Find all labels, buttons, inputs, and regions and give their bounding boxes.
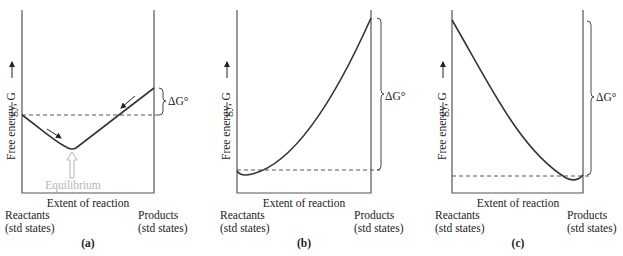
frame-c xyxy=(452,10,583,193)
frame-a xyxy=(22,10,154,193)
panel-b: Free energy, G ΔG° Extent of reaction Re… xyxy=(220,10,406,250)
panel-label-a: (a) xyxy=(81,237,95,250)
y-axis-label: Free energy, G xyxy=(436,92,449,160)
free-energy-diagram: Free energy, G ΔG° Equilibrium Extent of… xyxy=(0,0,623,256)
std-states-label: (std states) xyxy=(5,222,55,235)
std-states-label: (std states) xyxy=(220,222,270,235)
delta-g-brace-a xyxy=(159,88,166,115)
free-energy-curve-b xyxy=(237,18,371,175)
panel-label-b: (b) xyxy=(297,237,311,250)
downhill-arrow-icon xyxy=(121,96,135,108)
x-axis-label: Extent of reaction xyxy=(263,197,346,209)
delta-g-label: ΔG° xyxy=(168,95,189,107)
y-axis-label-a: Free energy, G xyxy=(5,62,18,160)
panel-a: Free energy, G ΔG° Equilibrium Extent of… xyxy=(5,10,189,250)
delta-g-label: ΔG° xyxy=(385,90,406,102)
delta-g-label: ΔG° xyxy=(596,91,617,103)
std-states-label: (std states) xyxy=(567,222,617,235)
std-states-label: (std states) xyxy=(138,222,188,235)
reactants-label: Reactants xyxy=(220,209,265,221)
free-energy-curve-c xyxy=(452,20,583,180)
products-label: Products xyxy=(354,209,395,221)
x-axis-label: Extent of reaction xyxy=(47,197,130,209)
x-axis-label: Extent of reaction xyxy=(477,197,560,209)
std-states-label: (std states) xyxy=(354,222,404,235)
std-states-label: (std states) xyxy=(435,222,485,235)
frame-b xyxy=(237,10,371,193)
delta-g-brace-c xyxy=(587,21,594,175)
products-label: Products xyxy=(567,209,608,221)
y-axis-label: Free energy, G xyxy=(220,92,233,160)
equilibrium-label: Equilibrium xyxy=(45,179,101,192)
y-axis-label: Free energy, G xyxy=(5,92,18,160)
products-label: Products xyxy=(138,209,179,221)
panel-c: Free energy, G ΔG° Extent of reaction Re… xyxy=(435,10,617,250)
equilibrium-arrow-icon xyxy=(67,152,77,178)
reactants-label: Reactants xyxy=(5,209,50,221)
delta-g-brace-b xyxy=(377,18,384,170)
panel-label-c: (c) xyxy=(512,237,525,250)
reactants-label: Reactants xyxy=(435,209,480,221)
